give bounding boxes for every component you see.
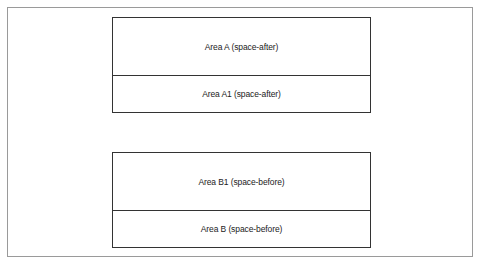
area-a: Area A (space-after) bbox=[113, 18, 370, 75]
area-b: Area B (space-before) bbox=[113, 211, 370, 247]
area-a-label: Area A (space-after) bbox=[205, 42, 279, 52]
area-b1: Area B1 (space-before) bbox=[113, 153, 370, 210]
area-group-a: Area A (space-after) Area A1 (space-afte… bbox=[112, 17, 371, 113]
area-b-label: Area B (space-before) bbox=[201, 224, 283, 234]
area-b1-label: Area B1 (space-before) bbox=[198, 177, 284, 187]
area-a1-label: Area A1 (space-after) bbox=[202, 89, 281, 99]
area-group-b: Area B1 (space-before) Area B (space-bef… bbox=[112, 152, 371, 248]
area-a1: Area A1 (space-after) bbox=[113, 76, 370, 112]
